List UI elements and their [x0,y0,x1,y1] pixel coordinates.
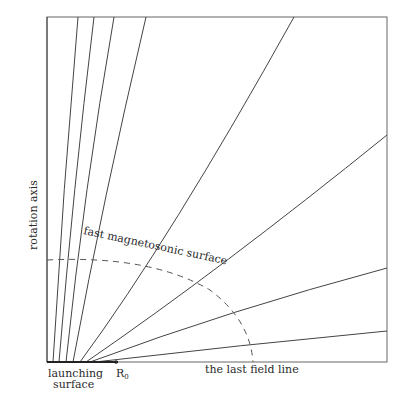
r0-label: R0 [116,367,129,381]
field-line-7 [90,268,387,362]
field-line-4 [73,17,146,362]
field-line-6 [86,135,387,362]
rotation-axis-label: rotation axis [27,180,40,250]
last-field-line-label: the last field line [205,363,299,376]
field-line-1 [53,17,78,362]
frame-box [47,17,387,362]
diagram-canvas: rotation axis fast magnetosonic surface … [0,0,406,406]
fast-magnetosonic-surface-curve [47,259,253,362]
r0-marker [114,360,118,364]
field-line-5 [80,17,294,362]
field-lines [47,17,387,362]
field-line-8 [95,331,387,362]
launching-label-2: surface [53,378,94,391]
